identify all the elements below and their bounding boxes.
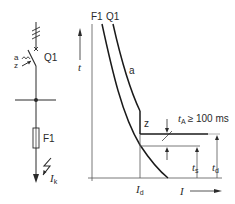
ta-arrow-down-icon: [165, 128, 169, 133]
overload-trip-icon: [22, 57, 30, 59]
fuse-label: F1: [43, 133, 55, 144]
curve-label-q1: Q1: [106, 11, 120, 22]
ts-label: ts: [192, 161, 199, 174]
time-current-chart: [78, 24, 222, 193]
selectivity-diagram: Q1 a z F1 Ik F1: [0, 0, 235, 204]
td-arrow-up-icon: [215, 135, 219, 140]
td-label: td: [212, 161, 219, 174]
ta-arrow-up-icon: [165, 147, 169, 152]
arrow-down-icon: [33, 174, 39, 183]
ts-arrow-up-icon: [195, 147, 199, 152]
circuit-schematic: [15, 22, 56, 183]
arrow-up-icon: [78, 28, 82, 36]
fault-current-label: Ik: [49, 172, 58, 185]
arrow-right-icon: [214, 189, 222, 193]
delay-label: tA≥ 100 ms: [178, 112, 229, 125]
region-z-label: z: [144, 118, 149, 129]
region-a-label: a: [129, 65, 135, 76]
breaker-label: Q1: [44, 52, 58, 63]
x-axis-label: I: [179, 185, 185, 197]
curve-label-f1: F1: [91, 11, 103, 22]
breaker-curve-a: [113, 24, 140, 111]
three-phase-marks-icon: [32, 27, 40, 39]
y-axis-label: t: [78, 61, 82, 73]
trip-z-label: z: [14, 61, 18, 70]
id-label: Id: [135, 183, 144, 196]
